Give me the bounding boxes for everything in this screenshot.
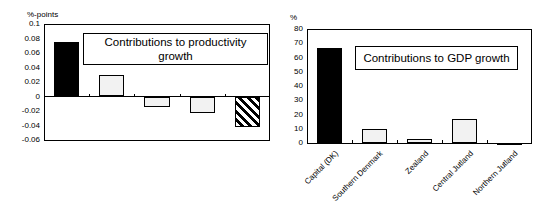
y-axis-unit: % (290, 13, 297, 22)
x-tick (397, 140, 398, 143)
bar-zealand (407, 139, 432, 143)
y-tick-label: 40 (269, 81, 303, 90)
x-category-label: Southern Denmark (331, 149, 385, 203)
y-tick-label: 10 (269, 124, 303, 133)
bar-capital-dk (317, 48, 342, 143)
bar-northern-jutland (497, 143, 522, 145)
y-tick-label: 80 (269, 24, 303, 33)
bar-southern-denmark (362, 129, 387, 143)
y-tick-label: 50 (269, 67, 303, 76)
x-category-label: Central Jutland (430, 149, 474, 193)
gdp-chart: % 80706050403020100 Contributions to GDP… (0, 0, 550, 207)
y-tick-label: 70 (269, 38, 303, 47)
x-tick (352, 140, 353, 143)
chart-title-box: Contributions to GDP growth (355, 46, 518, 70)
bar-central-jutland (452, 119, 477, 143)
y-tick-label: 0 (269, 138, 303, 147)
x-tick (487, 140, 488, 143)
x-category-label: Zealand (403, 149, 430, 176)
x-category-label: Capital (DK) (303, 149, 340, 186)
y-tick-label: 20 (269, 110, 303, 119)
x-tick (442, 140, 443, 143)
x-category-label: Northern Jutland (472, 149, 520, 197)
y-tick-label: 60 (269, 53, 303, 62)
y-tick-label: 30 (269, 95, 303, 104)
